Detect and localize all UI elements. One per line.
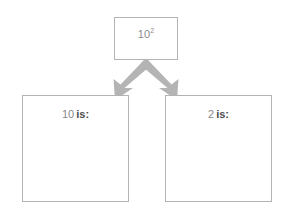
answer-box-base-value: 10	[62, 108, 74, 120]
exponent-node-label: 102	[115, 29, 177, 40]
arrow-to-right-box	[140, 58, 179, 100]
exponent-power: 2	[150, 27, 154, 34]
answer-box-exponent[interactable]: 2is:	[165, 95, 272, 202]
exponent-node[interactable]: 102	[114, 17, 178, 60]
answer-box-exponent-label: 2is:	[166, 109, 271, 120]
answer-box-base[interactable]: 10is:	[22, 95, 129, 202]
answer-box-exponent-value: 2	[208, 108, 214, 120]
exponent-base: 10	[138, 28, 151, 40]
arrow-to-left-box	[114, 58, 153, 100]
answer-box-base-label: 10is:	[23, 109, 128, 120]
answer-box-exponent-is: is:	[216, 108, 229, 120]
diagram-canvas: 102 10is: 2is:	[0, 0, 290, 216]
answer-box-base-is: is:	[76, 108, 89, 120]
